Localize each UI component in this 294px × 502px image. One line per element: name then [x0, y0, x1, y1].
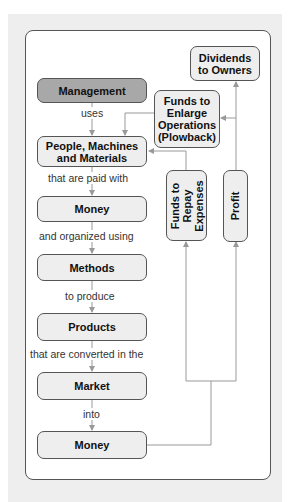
- people-machines-materials-label: People, Machines and Materials: [42, 140, 142, 164]
- people-machines-materials-box: People, Machines and Materials: [37, 136, 147, 167]
- repay-line1: Funds to: [169, 182, 181, 228]
- edge-label-paid-with: that are paid with: [47, 172, 129, 184]
- edge-label-to-produce: to produce: [64, 290, 116, 302]
- plowback-line2: Enlarge: [167, 107, 207, 119]
- repay-line2: Repay: [181, 189, 193, 222]
- dividends-line2: to Owners: [198, 64, 252, 76]
- methods-label: Methods: [69, 262, 114, 274]
- products-box: Products: [37, 313, 147, 341]
- market-box: Market: [37, 372, 147, 400]
- funds-to-repay-expenses-box: Funds to Repay Expenses: [166, 170, 207, 241]
- plowback-line1: Funds to: [164, 95, 210, 107]
- edge-label-organized-using: and organized using: [38, 230, 135, 242]
- management-label: Management: [58, 85, 125, 97]
- money-box-1: Money: [37, 196, 147, 222]
- edge-label-uses: uses: [80, 107, 104, 119]
- dividends-to-owners-box: Dividends to Owners: [190, 46, 260, 81]
- edge-label-into: into: [82, 408, 101, 420]
- edge-label-converted-in: that are converted in the: [29, 348, 144, 360]
- products-label: Products: [68, 321, 116, 333]
- methods-box: Methods: [37, 254, 147, 281]
- management-box: Management: [37, 78, 147, 103]
- market-label: Market: [74, 380, 109, 392]
- plowback-line3: Operations: [158, 119, 216, 131]
- profit-label: Profit: [230, 192, 242, 221]
- money-label-1: Money: [75, 203, 110, 215]
- plowback-box: Funds to Enlarge Operations (Plowback): [154, 90, 220, 148]
- repay-text: Funds to Repay Expenses: [169, 180, 205, 231]
- dividends-line1: Dividends: [199, 52, 252, 64]
- money-label-2: Money: [75, 439, 110, 451]
- plowback-line4: (Plowback): [158, 131, 216, 143]
- profit-box: Profit: [223, 170, 248, 242]
- money-box-2: Money: [37, 431, 147, 459]
- repay-line3: Expenses: [193, 180, 205, 231]
